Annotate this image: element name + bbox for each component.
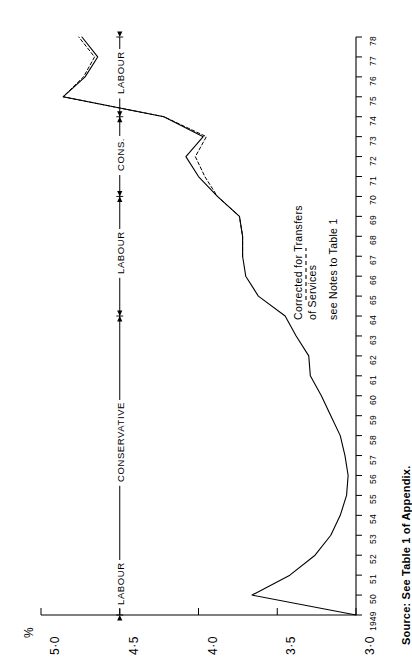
x-axis-tick-label: 74 bbox=[368, 116, 378, 126]
x-axis-tick-label: 73 bbox=[368, 136, 378, 146]
x-axis-tick-label: 76 bbox=[368, 76, 378, 86]
x-axis-tick-label: 77 bbox=[368, 56, 378, 66]
source-note: Source: See Table 1 of Appendix. bbox=[400, 466, 412, 645]
x-axis-tick-label: 72 bbox=[368, 156, 378, 166]
regime-arrow-head bbox=[117, 117, 122, 123]
legend-line-1: Corrected for Transfers bbox=[292, 205, 304, 320]
y-axis-tick-label: 5·0 bbox=[48, 636, 62, 655]
x-axis-tick-label: 52 bbox=[368, 554, 378, 564]
x-axis-tick-label: 62 bbox=[368, 355, 378, 365]
regime-arrow-head bbox=[117, 32, 122, 38]
series-line-main bbox=[63, 37, 356, 615]
x-axis-tick-label: 53 bbox=[368, 534, 378, 544]
x-axis-tick-label: 54 bbox=[368, 514, 378, 524]
x-axis-tick-label: 64 bbox=[368, 315, 378, 325]
government-period-bar bbox=[116, 32, 123, 621]
y-axis-tick-label: 3·5 bbox=[284, 636, 298, 655]
y-axis-tick-label: 3·0 bbox=[363, 636, 377, 655]
legend-line-2: of Services bbox=[306, 265, 318, 320]
x-axis-tick-label: 66 bbox=[368, 275, 378, 285]
regime-arrow-head bbox=[117, 615, 122, 621]
x-axis-ticks bbox=[356, 37, 362, 615]
x-axis-tick-label: 69 bbox=[368, 216, 378, 226]
government-period-label: CONSERVATIVE bbox=[115, 400, 126, 484]
x-axis-tick-label: 51 bbox=[368, 574, 378, 584]
y-axis-ticks bbox=[41, 608, 356, 615]
regime-arrow-head bbox=[117, 196, 122, 202]
y-axis-unit-label: % bbox=[22, 627, 36, 638]
x-axis-tick-label: 67 bbox=[368, 255, 378, 265]
government-period-label: LABOUR bbox=[115, 229, 126, 276]
chart-series-layer bbox=[63, 37, 356, 615]
x-axis-tick-label: 75 bbox=[368, 96, 378, 106]
x-axis-tick-label: 1949 bbox=[368, 611, 378, 631]
regime-arrow-head bbox=[117, 316, 122, 322]
legend-line-3: see Notes to Table 1 bbox=[327, 218, 339, 320]
y-axis-tick-label: 4·5 bbox=[127, 636, 141, 655]
x-axis-tick-label: 57 bbox=[368, 455, 378, 465]
x-axis-tick-label: 59 bbox=[368, 415, 378, 425]
x-axis-tick-label: 71 bbox=[368, 176, 378, 186]
government-period-label: LABOUR bbox=[115, 560, 126, 607]
x-axis-tick-label: 50 bbox=[368, 594, 378, 604]
x-axis-tick-label: 61 bbox=[368, 375, 378, 385]
x-axis-tick-label: 68 bbox=[368, 235, 378, 245]
x-axis-tick-label: 58 bbox=[368, 435, 378, 445]
x-axis-tick-label: 78 bbox=[368, 36, 378, 46]
y-axis-tick-label: 4·0 bbox=[206, 636, 220, 655]
chart-axes bbox=[41, 37, 362, 615]
government-period-label: CONS. bbox=[115, 136, 126, 173]
government-period-label: LABOUR bbox=[115, 50, 126, 97]
x-axis-tick-label: 70 bbox=[368, 196, 378, 206]
x-axis-tick-label: 56 bbox=[368, 475, 378, 485]
x-axis-tick-label: 63 bbox=[368, 335, 378, 345]
x-axis-tick-label: 55 bbox=[368, 495, 378, 505]
x-axis-tick-label: 65 bbox=[368, 295, 378, 305]
x-axis-tick-label: 60 bbox=[368, 395, 378, 405]
